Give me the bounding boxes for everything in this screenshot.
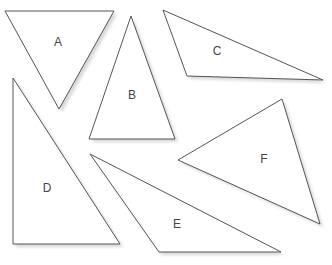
triangle-label: E	[173, 217, 181, 231]
triangle-shape	[163, 10, 323, 80]
triangle-shape	[178, 99, 320, 224]
triangle-label: A	[54, 35, 62, 49]
triangle-label: C	[213, 44, 222, 58]
triangle-label: D	[43, 181, 52, 195]
triangle-c: C	[163, 10, 326, 83]
triangle-label: F	[260, 152, 267, 166]
triangle-f: F	[178, 99, 323, 227]
triangle-label: B	[128, 88, 136, 102]
triangles-diagram: ABCDEF	[0, 0, 332, 265]
